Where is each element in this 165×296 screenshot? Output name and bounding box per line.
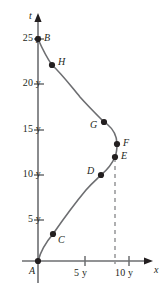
point-label-C: C: [58, 234, 65, 245]
point-label-F: F: [123, 137, 129, 148]
y-tick-label-25: 25 y: [23, 32, 41, 43]
point-label-A: A: [29, 265, 35, 276]
t-axis-arrow-icon: [34, 13, 41, 22]
graph-figure: 25 y 20 y 15 y 10 y 5 y 5 y 10 y t x A C…: [0, 0, 165, 296]
point-label-G: G: [90, 119, 97, 130]
x-axis-arrow-icon: [144, 257, 153, 264]
point-label-D: D: [87, 165, 94, 176]
y-tick-label-5: 5 y: [28, 213, 41, 224]
data-point-G: [101, 119, 107, 125]
y-tick-label-20: 20 y: [23, 77, 41, 88]
plot-canvas: [0, 0, 165, 296]
data-point-C: [50, 231, 56, 237]
data-point-F: [114, 141, 120, 147]
point-label-E: E: [121, 150, 127, 161]
x-axis-label: x: [154, 264, 158, 275]
data-point-A: [35, 258, 41, 264]
data-point-E: [112, 154, 118, 160]
x-tick-label-10: 10 y: [115, 267, 133, 278]
point-label-H: H: [58, 56, 65, 67]
point-label-B: B: [44, 32, 50, 43]
y-tick-label-15: 15 y: [23, 123, 41, 134]
data-point-D: [98, 172, 104, 178]
y-tick-label-10: 10 y: [23, 168, 41, 179]
t-axis-label: t: [29, 10, 32, 21]
data-curve: [38, 39, 117, 261]
data-point-H: [49, 62, 55, 68]
x-tick-label-5: 5 y: [74, 267, 87, 278]
data-point-markers: [35, 36, 120, 264]
